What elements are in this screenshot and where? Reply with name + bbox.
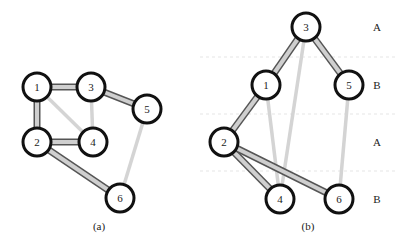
node-label: 6 <box>336 193 342 205</box>
edge-light-5-6 <box>339 85 349 199</box>
node-label: 4 <box>90 136 96 148</box>
node-label: 3 <box>303 21 309 33</box>
node-label: 2 <box>221 136 227 148</box>
node-label: 2 <box>34 136 40 148</box>
node-label: 4 <box>277 193 283 205</box>
layer-label: B <box>373 193 380 205</box>
node-label: 3 <box>88 81 94 93</box>
layer-label: A <box>373 21 381 33</box>
node-label: 6 <box>117 192 123 204</box>
node-label: 5 <box>144 103 150 115</box>
node-label: 5 <box>346 79 352 91</box>
node-label: 1 <box>263 79 269 91</box>
layer-label: A <box>373 136 381 148</box>
figure-caption: (b) <box>302 220 315 232</box>
figure-caption: (a) <box>93 220 105 232</box>
node-label: 1 <box>34 81 40 93</box>
graph-canvas <box>0 0 402 246</box>
layer-label: B <box>373 79 380 91</box>
